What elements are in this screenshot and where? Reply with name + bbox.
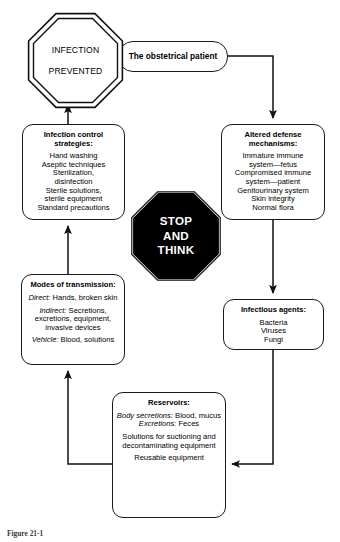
infection-control-item: Standard precautions bbox=[26, 204, 121, 213]
node-infection-control-strategies: Infection control strategies: Hand washi… bbox=[22, 124, 125, 220]
infectious-agents-title: Infectious agents: bbox=[227, 306, 320, 315]
modes-group-vehicle: Vehicle: Blood, solutions bbox=[24, 336, 122, 345]
figure-caption: Figure 21-1 bbox=[7, 529, 43, 538]
stop-and-think-octagon: STOP AND THINK bbox=[130, 190, 222, 282]
obstetrical-patient-label: The obstetrical patient bbox=[129, 52, 218, 61]
reservoirs-text-excretions: Feces bbox=[176, 419, 199, 428]
edge-infectious-agents-to-reservoirs bbox=[232, 350, 273, 464]
modes-lead-direct: Direct: bbox=[28, 293, 50, 302]
node-infectious-agents: Infectious agents: Bacteria Viruses Fung… bbox=[223, 299, 324, 350]
reservoirs-group-excretions: Excretions: Feces bbox=[116, 420, 222, 429]
node-modes-of-transmission: Modes of transmission: Direct: Hands, br… bbox=[21, 274, 125, 365]
flowchart-diagram: INFECTION PREVENTED The obstetrical pati… bbox=[0, 0, 340, 542]
modes-group-indirect: Indirect: Secretions, excretions, equipm… bbox=[24, 307, 122, 333]
node-obstetrical-patient: The obstetrical patient bbox=[118, 41, 228, 72]
modes-lead-vehicle: Vehicle: bbox=[32, 335, 59, 344]
modes-title: Modes of transmission: bbox=[24, 281, 122, 290]
infectious-agents-item: Fungi bbox=[227, 336, 320, 345]
octagon-shape bbox=[130, 190, 222, 282]
altered-defense-title: Altered defense mechanisms: bbox=[225, 131, 321, 148]
reservoirs-reusable-equipment: Reusable equipment bbox=[116, 454, 222, 463]
infection-prevented-octagon: INFECTION PREVENTED bbox=[27, 12, 124, 109]
octagon-shape bbox=[27, 12, 124, 109]
modes-text-direct: Hands, broken skin bbox=[50, 293, 117, 302]
reservoirs-lead-excretions: Excretions: bbox=[139, 419, 177, 428]
modes-group-direct: Direct: Hands, broken skin bbox=[24, 294, 122, 303]
infection-control-title-text: Infection control strategies: bbox=[44, 130, 103, 148]
node-reservoirs: Reservoirs: Body secretions: Blood, mucu… bbox=[112, 392, 226, 518]
modes-text-vehicle: Blood, solutions bbox=[59, 335, 115, 344]
altered-defense-item: Normal flora bbox=[225, 204, 321, 213]
reservoirs-solutions-block: Solutions for suctioning and decontamina… bbox=[116, 433, 222, 450]
edge-patient-to-altered-defense bbox=[228, 56, 273, 118]
reservoirs-title: Reservoirs: bbox=[116, 399, 222, 408]
infection-control-title: Infection control strategies: bbox=[26, 131, 121, 148]
edge-reservoirs-to-modes bbox=[68, 371, 112, 464]
node-altered-defense-mechanisms: Altered defense mechanisms: Immature imm… bbox=[221, 124, 325, 220]
